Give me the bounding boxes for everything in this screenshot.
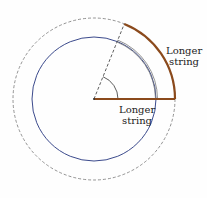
inner-arc-double-inner [117, 42, 156, 99]
diagram-canvas: Longer string Longer string [0, 0, 207, 198]
center-point [93, 98, 95, 100]
geometry-figure [0, 0, 207, 198]
angle-arc [103, 77, 118, 99]
outer-label-line2: string [166, 56, 202, 67]
inner-arc-double-outer [118, 40, 158, 99]
radius-string-label: Longer string [119, 104, 155, 126]
radius-label-line1: Longer [119, 104, 155, 115]
outer-string-label: Longer string [166, 45, 202, 67]
outer-label-line1: Longer [166, 45, 202, 56]
dashed-radius-line [94, 24, 124, 99]
radius-label-line2: string [119, 115, 155, 126]
